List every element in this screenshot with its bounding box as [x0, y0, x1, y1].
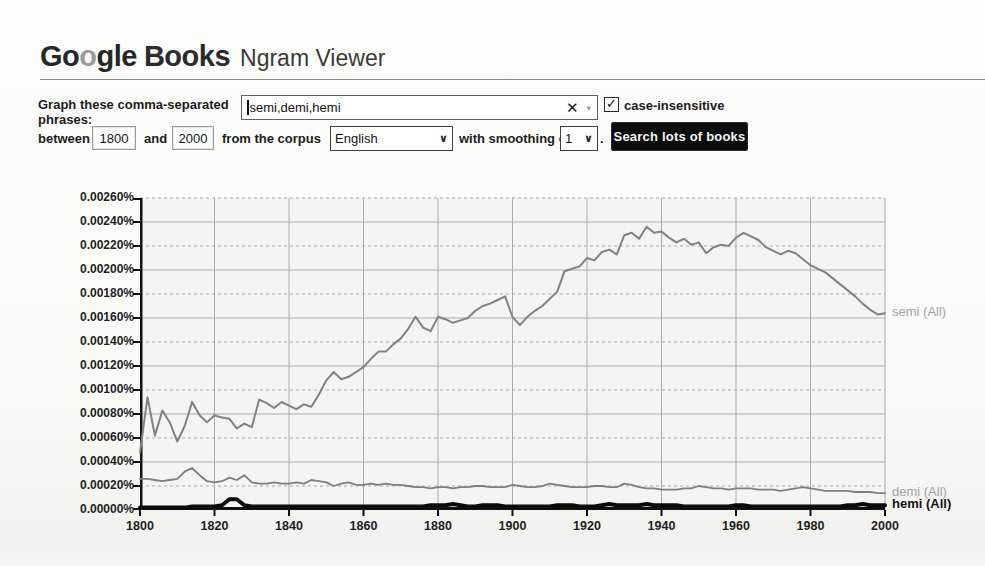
logo-text-google: Go	[40, 40, 79, 72]
logo-text-gle: gle	[97, 40, 137, 72]
header-divider	[40, 79, 985, 80]
chevron-down-icon: ∨	[437, 132, 452, 145]
smoothing-label: with smoothing of	[459, 131, 571, 146]
text-cursor	[247, 100, 249, 115]
corpus-select-value: English	[331, 131, 437, 146]
input-history-dropdown-icon[interactable]: ▾	[586, 103, 591, 113]
case-insensitive-checkbox[interactable]: ✓	[604, 97, 619, 112]
y-axis-label: 0.00220%	[56, 238, 134, 252]
x-axis-label: 1800	[118, 519, 162, 533]
case-insensitive-label[interactable]: case-insensitive	[624, 98, 724, 113]
search-lots-of-books-button[interactable]: Search lots of books	[611, 122, 748, 151]
logo-letter-o: o	[79, 40, 96, 72]
period-text: .	[600, 131, 604, 146]
y-axis-label: 0.00000%	[56, 502, 134, 516]
smoothing-select-value: 1	[561, 131, 582, 146]
x-axis-label: 1900	[491, 519, 535, 533]
start-year-input[interactable]: 1800	[92, 126, 136, 150]
x-axis-label: 1880	[416, 519, 460, 533]
x-axis-label: 1820	[193, 519, 237, 533]
y-axis-label: 0.00200%	[56, 262, 134, 276]
y-axis-label: 0.00180%	[56, 286, 134, 300]
series-label-semi: semi (All)	[892, 304, 946, 319]
between-label: between	[38, 131, 90, 146]
and-label: and	[144, 131, 167, 146]
y-axis-label: 0.00100%	[56, 382, 134, 396]
y-axis-label: 0.00240%	[56, 214, 134, 228]
graph-phrases-label-line2: phrases:	[38, 112, 92, 127]
chevron-down-icon: ∨	[582, 132, 597, 145]
logo-text-ngram-viewer: Ngram Viewer	[240, 45, 385, 71]
x-axis-label: 1980	[789, 519, 833, 533]
y-axis-label: 0.00160%	[56, 310, 134, 324]
clear-input-icon[interactable]: ✕	[566, 100, 579, 115]
graph-phrases-label-line1: Graph these comma-separated	[38, 97, 229, 112]
search-button-label: Search lots of books	[614, 129, 746, 144]
phrases-input-value: semi,demi,hemi	[250, 100, 566, 115]
y-axis-label: 0.00040%	[56, 454, 134, 468]
y-axis-label: 0.00020%	[56, 478, 134, 492]
y-axis-label: 0.00120%	[56, 358, 134, 372]
checkmark-icon: ✓	[606, 97, 617, 110]
y-axis-label: 0.00080%	[56, 406, 134, 420]
y-axis-label: 0.00060%	[56, 430, 134, 444]
x-axis-label: 1920	[565, 519, 609, 533]
corpus-label: from the corpus	[222, 131, 321, 146]
x-axis-label: 1840	[267, 519, 311, 533]
y-axis-label: 0.00140%	[56, 334, 134, 348]
phrases-input[interactable]: semi,demi,hemi ✕ ▾	[241, 95, 598, 120]
x-axis-label: 1860	[342, 519, 386, 533]
x-axis-label: 1940	[640, 519, 684, 533]
ngram-chart-plot	[140, 198, 885, 510]
x-axis-label: 1960	[714, 519, 758, 533]
series-label-hemi: hemi (All)	[892, 496, 951, 511]
y-axis-label: 0.00260%	[56, 190, 134, 204]
logo-text-books: Books	[144, 40, 230, 72]
google-books-logo[interactable]: GoogleBooksNgram Viewer	[40, 40, 385, 73]
end-year-input[interactable]: 2000	[172, 126, 214, 150]
corpus-select[interactable]: English ∨	[330, 126, 453, 151]
x-axis-label: 2000	[863, 519, 907, 533]
ngram-viewer-page: GoogleBooksNgram Viewer Graph these comm…	[0, 0, 985, 566]
smoothing-select[interactable]: 1 ∨	[560, 126, 598, 151]
